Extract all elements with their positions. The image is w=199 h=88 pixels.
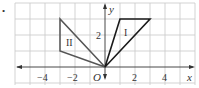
x-tick-label: 2: [132, 72, 137, 83]
x-tick-label: 4: [162, 72, 167, 83]
x-axis-label: x: [186, 71, 192, 83]
x-axis-arrow-right-icon: [189, 65, 195, 69]
bullet-marker: •: [2, 6, 5, 16]
axes: [16, 3, 195, 80]
y-axis-arrow-down-icon: [103, 74, 107, 80]
y-axis-arrow-up-icon: [103, 3, 107, 9]
shape-label-I: I: [124, 27, 127, 38]
x-tick-label: −4: [37, 72, 48, 83]
x-axis-arrow-left-icon: [16, 65, 22, 69]
x-tick-label: −2: [67, 72, 78, 83]
shape-label-II: II: [66, 37, 73, 48]
origin-label: O: [93, 71, 101, 83]
triangle-I: [105, 19, 150, 67]
coordinate-figure: • y x O −4 −2 2 4 2 I II: [0, 0, 199, 88]
y-axis-label: y: [108, 3, 114, 15]
y-tick-label: 2: [96, 30, 101, 41]
